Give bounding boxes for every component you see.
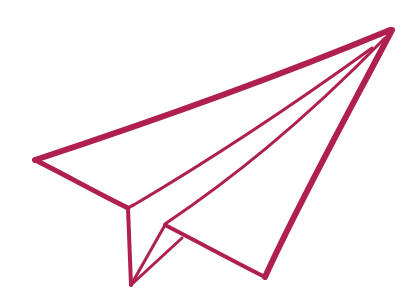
- paper-airplane-illustration: paper airplane: [0, 0, 419, 308]
- paper-airplane-icon: [0, 0, 419, 308]
